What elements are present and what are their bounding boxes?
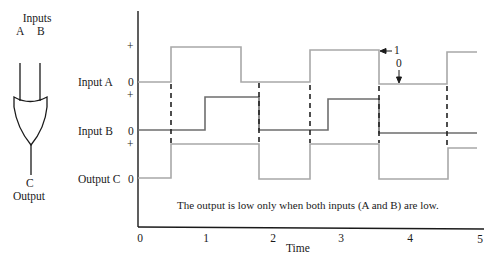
gate-output-letter: C [26,178,34,190]
x-axis [138,227,484,229]
level-low-mark-c: 0 [128,174,134,186]
gate-input-a-label: A [16,26,24,38]
signal-label-input-b: Input B [78,126,113,138]
waveform-input-a [138,47,477,84]
high-level-annotation: 1 [394,45,400,57]
gate-inputs-label: Inputs [17,13,57,25]
x-tick-4: 4 [404,233,416,245]
level-low-mark-b: 0 [128,126,134,138]
transition-markers [171,83,447,146]
x-axis-label: Time [286,243,310,255]
x-tick-5: 5 [474,234,486,246]
high-level-arrowhead-icon [380,49,386,54]
level-high-mark-b: + [127,90,134,102]
level-low-mark-a: 0 [128,77,134,89]
axes [138,11,484,229]
level-high-mark-c: + [127,139,134,151]
low-level-arrowhead-icon [397,77,402,83]
x-tick-3: 3 [335,233,347,245]
low-level-annotation: 0 [396,58,402,70]
timing-diagram-figure [0,0,494,260]
caption-text: The output is low only when both inputs … [177,200,439,211]
signal-label-input-a: Input A [78,77,113,89]
x-tick-0: 0 [134,233,146,245]
level-high-mark-a: + [127,41,134,53]
gate-output-label: Output [13,191,45,203]
waveform-output-c [138,144,477,179]
or-gate-symbol [14,63,47,175]
x-tick-1: 1 [200,233,212,245]
signal-label-output-c: Output C [78,174,121,186]
gate-input-b-label: B [37,26,45,38]
or-gate-body [14,97,47,145]
waveform-input-b [138,97,477,133]
x-tick-2: 2 [267,233,279,245]
